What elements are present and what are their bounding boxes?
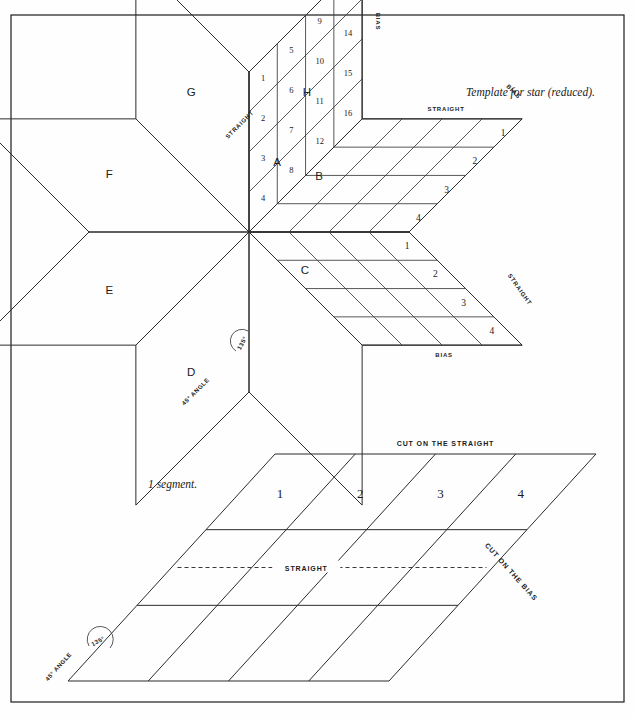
page-root: HDEFG12345678910111213141516STRAIGHTBIAS… [0, 0, 634, 719]
single-segment-template: STRAIGHT1234CUT ON THE STRAIGHTCUT ON TH… [44, 440, 596, 682]
star-segment-G [136, 0, 249, 232]
star-label-F: F [106, 168, 113, 180]
segment-column-number: 1 [277, 486, 284, 501]
segment-A-cell: 3 [261, 153, 265, 163]
segment-C-number: 2 [433, 269, 438, 279]
straight-center-label: STRAIGHT [285, 565, 328, 572]
star-segment-F [0, 119, 249, 232]
cut-on-bias-label: CUT ON THE BIAS [484, 542, 539, 602]
segment-column-number: 3 [437, 486, 444, 501]
segment-A-straight-label: STRAIGHT [224, 109, 254, 139]
cut-on-straight-label: CUT ON THE STRAIGHT [397, 440, 495, 447]
segment-A-cell: 14 [344, 28, 353, 38]
star-caption: Template for star (reduced). [466, 86, 595, 99]
segment-A-cell: 16 [344, 108, 353, 118]
segment-C-straight-label: STRAIGHT [507, 273, 533, 307]
angle-edge-label-star: 45° ANGLE [181, 377, 211, 407]
angle-arc-label-star: 135° [236, 335, 248, 351]
segment-C-number: 4 [490, 326, 495, 336]
segment-A-cell: 8 [289, 165, 293, 175]
segment-A-cell: 10 [315, 56, 324, 66]
segment-A-cell: 12 [315, 136, 324, 146]
segment-C-number: 3 [461, 298, 466, 308]
angle-arc-label-segment: 135° [90, 635, 106, 647]
star-template: HDEFG12345678910111213141516STRAIGHTBIAS… [0, 0, 533, 505]
segment-A-cell: 15 [344, 68, 353, 78]
template-illustration: HDEFG12345678910111213141516STRAIGHTBIAS… [0, 0, 634, 719]
segment-A-cell: 2 [261, 113, 265, 123]
segment-A-cell: 11 [316, 96, 324, 106]
segment-column-number: 4 [517, 486, 524, 501]
segment-B-straight-label: STRAIGHT [428, 106, 465, 112]
star-label-B: B [315, 170, 323, 182]
segment-B-number: 3 [444, 185, 449, 195]
segment-C-number: 1 [405, 241, 410, 251]
star-label-E: E [105, 284, 113, 296]
segment-A-cell: 4 [261, 193, 266, 203]
segment-A-cell: 7 [289, 125, 293, 135]
star-label-A: A [273, 156, 281, 168]
star-segment-E [0, 232, 249, 345]
segment-column-number: 2 [357, 486, 364, 501]
segment-caption: 1 segment. [148, 478, 197, 491]
segment-A-bias-label: BIAS [375, 13, 381, 31]
segment-C-bias-label: BIAS [435, 352, 453, 358]
segment-A-cell: 6 [289, 85, 293, 95]
star-label-G: G [187, 86, 196, 98]
segment-A-cell: 1 [261, 73, 265, 83]
segment-A-cell: 9 [318, 16, 322, 26]
segment-B-number: 2 [473, 156, 478, 166]
segment-B-number: 4 [416, 213, 421, 223]
star-label-C: C [301, 264, 309, 276]
star-label-D: D [187, 366, 195, 378]
segment-A-cell: 5 [289, 45, 293, 55]
segment-B-number: 1 [501, 128, 506, 138]
angle-edge-label-segment: 45° ANGLE [44, 651, 73, 682]
